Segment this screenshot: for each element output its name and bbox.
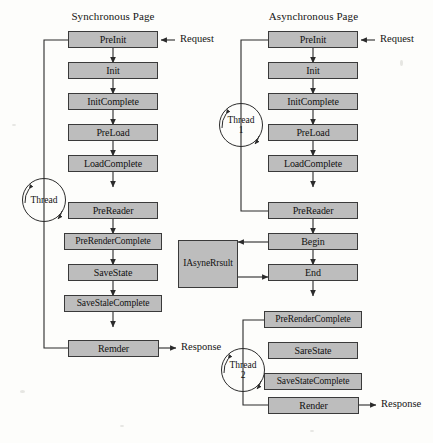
page-lifecycle-diagram: Synchronous Page Asynchronous Page [0, 0, 433, 443]
node-async-preinit[interactable]: PreInit [268, 31, 358, 48]
node-sync-savestate[interactable]: SaveState [68, 264, 158, 281]
paper-speck [12, 124, 16, 126]
node-async-loadcomplete[interactable]: LoadComplete [268, 155, 358, 172]
thread-2-label-line2: 2 [241, 370, 246, 380]
node-sync-preinit[interactable]: PreInit [68, 31, 158, 48]
node-async-render[interactable]: Render [268, 397, 359, 414]
paper-speck [20, 390, 25, 393]
column-title-synchronous: Synchronous Page [63, 10, 163, 22]
paper-speck [120, 425, 124, 427]
node-async-prereader[interactable]: PreReader [268, 202, 358, 219]
node-sync-preload[interactable]: PreLoad [68, 124, 158, 141]
paper-speck [310, 430, 314, 432]
node-async-init[interactable]: Init [268, 62, 358, 79]
node-sync-prereader[interactable]: PreReader [68, 202, 158, 219]
label-async-request: Request [380, 33, 414, 44]
thread-1-label-line1: Thread [228, 115, 255, 125]
thread-1-label-line2: 1 [239, 125, 244, 135]
node-sync-remder[interactable]: Remder [68, 340, 159, 357]
label-async-response: Response [381, 398, 421, 409]
node-async-begin[interactable]: Begin [268, 233, 358, 250]
thread-label-line1: Thread [31, 195, 58, 205]
node-async-sarestate[interactable]: SareState [268, 342, 358, 359]
node-sync-savestalecomplete[interactable]: SaveStaleComplete [64, 295, 162, 312]
thread-circle-async-2: Thread 2 [221, 348, 265, 392]
thread-circle-sync: Thread [22, 178, 66, 222]
node-async-prerendercomplete[interactable]: PreRenderComplete [264, 311, 362, 328]
connector-lines [0, 0, 433, 443]
node-async-preload[interactable]: PreLoad [268, 124, 358, 141]
label-sync-request: Request [180, 33, 214, 44]
node-sync-loadcomplete[interactable]: LoadComplete [68, 155, 158, 172]
node-iasyncresult[interactable]: IAsyneRrsult [178, 240, 238, 288]
label-sync-response: Response [181, 341, 221, 352]
node-sync-prerendercomplete[interactable]: PreRenderComplete [64, 233, 162, 250]
node-async-end[interactable]: End [268, 264, 358, 281]
paper-speck [400, 60, 403, 66]
node-async-initcomplete[interactable]: InitComplete [268, 93, 358, 110]
node-sync-initcomplete[interactable]: InitComplete [68, 93, 158, 110]
thread-2-label-line1: Thread [230, 360, 257, 370]
node-async-savestatecomplete[interactable]: SaveStateComplete [264, 373, 362, 390]
column-title-asynchronous: Asynchronous Page [262, 10, 365, 22]
node-sync-init[interactable]: Init [68, 62, 158, 79]
thread-circle-async-1: Thread 1 [219, 103, 263, 147]
